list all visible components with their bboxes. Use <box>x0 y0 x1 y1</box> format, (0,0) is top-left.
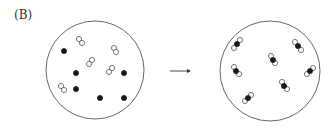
filled-atom <box>121 95 126 100</box>
filled-atom <box>270 57 275 62</box>
filled-atom <box>73 70 78 75</box>
filled-atom <box>97 95 102 100</box>
before-container-circle <box>46 21 144 119</box>
after-particles <box>231 37 315 103</box>
open-atom <box>113 49 118 54</box>
reaction-arrow-icon <box>170 69 191 73</box>
filled-atom <box>295 43 300 48</box>
before-particles <box>58 36 126 100</box>
filled-atom <box>233 68 238 73</box>
filled-atom <box>245 95 250 100</box>
filled-atom <box>234 41 239 46</box>
filled-atom <box>281 83 286 88</box>
filled-atom <box>121 70 126 75</box>
open-atom <box>106 69 111 74</box>
open-atom <box>79 40 84 45</box>
filled-atom <box>307 68 312 73</box>
open-atom <box>61 87 66 92</box>
filled-atom <box>73 86 78 91</box>
open-atom <box>86 61 91 66</box>
reaction-diagram <box>0 0 333 128</box>
filled-atom <box>61 48 66 53</box>
